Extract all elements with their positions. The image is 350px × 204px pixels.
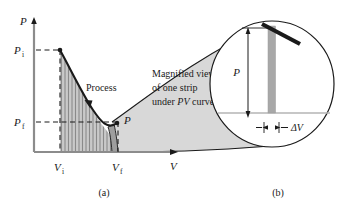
tick-label-v-initial: V [54,161,62,173]
magnifier-circle-group: P ΔV [210,21,334,147]
physics-figure: P V P i P f V i V f Process P Magnified … [0,0,350,204]
magnified-line3-pre: under [152,96,177,107]
caption-panel-a: (a) [98,187,109,199]
process-label: Process [86,82,117,93]
tick-label-p-initial-subscript: i [22,50,24,59]
tick-label-p-final: P [13,116,21,128]
strip-height-label: P [232,66,240,78]
y-axis-arrowhead [31,17,37,24]
tick-label-p-initial: P [13,44,21,56]
x-axis-label: V [170,160,178,172]
magnified-view-line2: of one strip [152,82,198,93]
tick-label-v-final-subscript: f [120,167,123,176]
magnified-view-line3: under PV curve [152,96,215,107]
strip-width-label: ΔV [290,122,305,133]
figure-canvas: P V P i P f V i V f Process P Magnified … [0,0,350,204]
curve-end-point [115,121,120,126]
caption-panel-b: (b) [272,187,284,199]
curve-start-point [58,48,63,53]
tick-label-v-final: V [112,161,120,173]
magnified-strip [268,26,276,113]
tick-label-p-final-subscript: f [22,122,25,131]
magnified-view-line1: Magnified view [152,68,216,79]
tick-label-v-initial-subscript: i [62,167,64,176]
y-axis-label: P [19,15,27,27]
point-p-label: P [123,114,131,126]
